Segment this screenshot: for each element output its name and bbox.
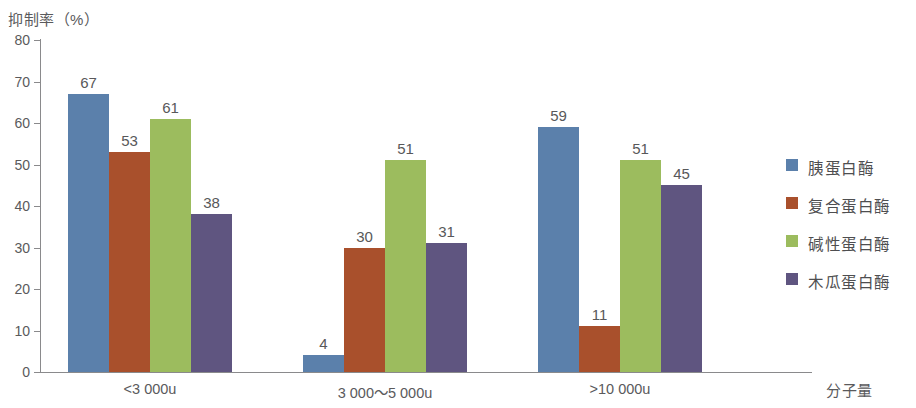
legend-color-swatch (786, 273, 798, 285)
bar-value-label: 51 (620, 141, 661, 156)
bar[interactable] (150, 119, 191, 372)
bar[interactable] (385, 160, 426, 372)
bar-value-label: 38 (191, 195, 232, 210)
bar-fill (303, 355, 344, 372)
y-tick-mark (34, 372, 41, 373)
bar[interactable] (344, 248, 385, 373)
bar-value-label: 31 (426, 224, 467, 239)
bar-fill (150, 119, 191, 372)
legend-color-swatch (786, 197, 798, 209)
x-axis-title: 分子量 (826, 379, 873, 400)
y-tick-label: 50 (4, 158, 30, 172)
bar[interactable] (109, 152, 150, 372)
bar-fill (385, 160, 426, 372)
y-tick-label: 30 (4, 241, 30, 255)
bar-fill (620, 160, 661, 372)
legend-label: 胰蛋白酶 (808, 156, 874, 178)
bar-value-label: 45 (661, 166, 702, 181)
bar-fill (68, 94, 109, 372)
x-axis-category-label: >10 000u (530, 381, 710, 397)
bar-value-label: 11 (579, 307, 620, 322)
bar[interactable] (68, 94, 109, 372)
bar[interactable] (579, 326, 620, 372)
bar-value-label: 4 (303, 336, 344, 351)
legend-color-swatch (786, 159, 798, 171)
bar-fill (538, 127, 579, 372)
plot-area: 67536138430513159115145 (40, 40, 760, 372)
x-axis-line (40, 372, 812, 373)
bar[interactable] (191, 214, 232, 372)
bar-value-label: 53 (109, 133, 150, 148)
bar[interactable] (426, 243, 467, 372)
bar[interactable] (303, 355, 344, 372)
bar[interactable] (538, 127, 579, 372)
legend-label: 碱性蛋白酶 (808, 232, 891, 254)
y-axis-title: 抑制率（%） (8, 8, 99, 29)
y-tick-label: 0 (4, 365, 30, 379)
bar-fill (109, 152, 150, 372)
x-axis-category-label: 3 000～5 000u (295, 381, 475, 402)
bar[interactable] (661, 185, 702, 372)
bar-fill (191, 214, 232, 372)
bar-fill (344, 248, 385, 373)
legend-color-swatch (786, 235, 798, 247)
bar-chart-figure: 抑制率（%） 80706050403020100 675361384305131… (0, 0, 916, 408)
bar-fill (661, 185, 702, 372)
bar-value-label: 61 (150, 100, 191, 115)
legend-label: 复合蛋白酶 (808, 194, 891, 216)
bar-value-label: 30 (344, 229, 385, 244)
bar-value-label: 51 (385, 141, 426, 156)
y-tick-label: 80 (4, 33, 30, 47)
x-axis-category-label: <3 000u (60, 381, 240, 397)
bar-fill (426, 243, 467, 372)
legend-label: 木瓜蛋白酶 (808, 270, 891, 292)
bar[interactable] (620, 160, 661, 372)
y-tick-label: 10 (4, 324, 30, 338)
y-tick-label: 40 (4, 199, 30, 213)
bar-fill (579, 326, 620, 372)
bar-value-label: 67 (68, 75, 109, 90)
y-tick-label: 70 (4, 75, 30, 89)
y-tick-label: 20 (4, 282, 30, 296)
y-tick-label: 60 (4, 116, 30, 130)
bar-value-label: 59 (538, 108, 579, 123)
